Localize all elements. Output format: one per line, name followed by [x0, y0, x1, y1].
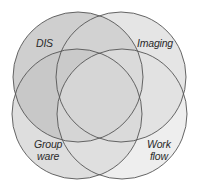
label-dis-line1: DIS	[36, 37, 53, 49]
label-workflow: Work flow	[147, 138, 171, 162]
label-workflow-line1: Work	[147, 138, 171, 150]
label-dis: DIS	[36, 37, 53, 49]
label-imaging-line1: Imaging	[137, 37, 173, 49]
label-groupware: Group ware	[34, 138, 62, 162]
label-imaging: Imaging	[137, 37, 173, 49]
label-groupware-line2: ware	[34, 150, 62, 162]
label-groupware-line1: Group	[34, 138, 62, 150]
label-workflow-line2: flow	[147, 150, 171, 162]
